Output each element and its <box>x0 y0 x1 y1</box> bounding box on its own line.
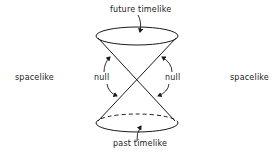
past-cone-rim-front <box>96 123 178 132</box>
null-right-down-arrow-icon <box>158 84 169 96</box>
null-right-label: null <box>165 73 180 82</box>
spacelike-right-label: spacelike <box>230 73 269 82</box>
null-left-label: null <box>94 73 109 82</box>
future-timelike-label: future timelike <box>110 5 171 14</box>
future-arrow-icon <box>138 15 141 32</box>
past-cone-rim-back <box>96 114 178 123</box>
null-left-up-arrow-icon <box>104 57 110 72</box>
null-left-down-arrow-icon <box>107 84 117 96</box>
light-cone-diagram: future timelike past timelike null null … <box>0 0 278 159</box>
spacelike-left-label: spacelike <box>15 73 54 82</box>
future-cone-rim <box>96 27 178 45</box>
past-timelike-label: past timelike <box>113 139 167 148</box>
null-right-up-arrow-icon <box>162 57 172 72</box>
